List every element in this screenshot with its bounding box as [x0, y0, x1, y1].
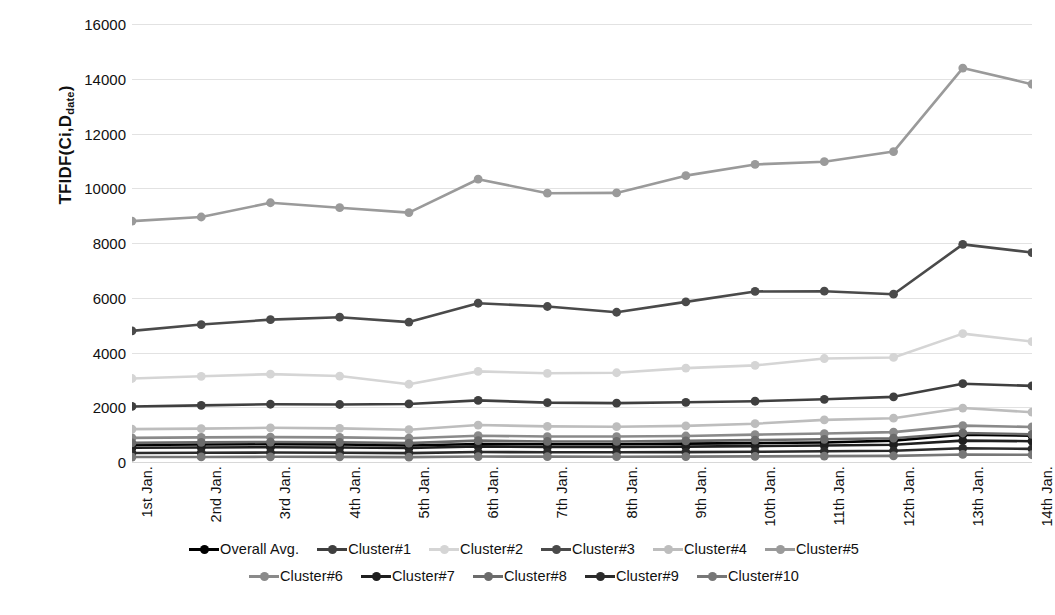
data-point	[474, 299, 483, 308]
legend-label: Cluster#6	[280, 569, 343, 584]
legend-item-cluster-10[interactable]: Cluster#10	[697, 568, 799, 584]
legend-item-cluster-8[interactable]: Cluster#8	[473, 568, 567, 584]
x-axis-tick-label: 8th Jan.	[624, 466, 640, 518]
x-axis-tick-label: 14th Jan.	[1039, 466, 1055, 527]
legend-marker-icon	[653, 543, 683, 556]
legend-marker-icon	[249, 570, 279, 583]
data-point	[197, 372, 206, 381]
legend-row: Cluster#6Cluster#7Cluster#8Cluster#9Clus…	[0, 567, 1048, 584]
x-axis-tick-label: 6th Jan.	[485, 466, 501, 518]
data-point	[405, 400, 414, 409]
series-cluster-5	[132, 64, 1032, 226]
data-point	[543, 398, 552, 407]
x-axis-tick-label: 3rd Jan.	[277, 466, 293, 519]
series-line	[132, 68, 1032, 221]
legend-item-cluster-9[interactable]: Cluster#9	[585, 568, 679, 584]
y-axis-tick-label: 8000	[66, 235, 126, 252]
data-point	[889, 414, 898, 423]
data-point	[751, 361, 760, 370]
series-cluster-2	[132, 329, 1032, 388]
legend-marker-icon	[429, 543, 459, 556]
x-axis-tick-label: 10th Jan.	[762, 466, 778, 527]
y-axis-ticks: 0200040006000800010000120001400016000	[62, 0, 126, 615]
legend-label: Cluster#2	[460, 542, 523, 557]
legend-dot	[484, 572, 493, 581]
data-point	[751, 419, 760, 428]
legend-dot	[440, 545, 449, 554]
data-point	[197, 401, 206, 410]
legend-item-cluster-1[interactable]: Cluster#1	[317, 541, 411, 557]
data-point	[335, 203, 344, 212]
data-point	[405, 318, 414, 327]
data-point	[266, 315, 275, 324]
legend-item-cluster-2[interactable]: Cluster#2	[429, 541, 523, 557]
data-point	[681, 364, 690, 373]
legend-dot	[664, 545, 673, 554]
data-point	[612, 399, 621, 408]
data-point	[681, 297, 690, 306]
legend: Overall Avg.Cluster#1Cluster#2Cluster#3C…	[0, 540, 1048, 594]
data-point	[543, 369, 552, 378]
data-point	[612, 308, 621, 317]
data-point	[197, 453, 206, 462]
data-point	[889, 353, 898, 362]
data-point	[543, 437, 552, 446]
x-axis-tick-label: 9th Jan.	[693, 466, 709, 518]
data-point	[751, 436, 760, 445]
legend-item-cluster-5[interactable]: Cluster#5	[765, 541, 859, 557]
data-point	[751, 397, 760, 406]
legend-item-cluster-3[interactable]: Cluster#3	[541, 541, 635, 557]
data-point	[266, 370, 275, 379]
legend-dot	[260, 572, 269, 581]
y-axis-tick-label: 12000	[66, 125, 126, 142]
legend-marker-icon	[697, 570, 727, 583]
data-point	[474, 396, 483, 405]
y-axis-tick-label: 16000	[66, 16, 126, 33]
legend-marker-icon	[765, 543, 795, 556]
legend-marker-icon	[189, 543, 219, 556]
legend-item-cluster-7[interactable]: Cluster#7	[361, 568, 455, 584]
x-axis-tick-label: 1st Jan.	[139, 466, 155, 518]
data-point	[335, 438, 344, 447]
data-point	[958, 329, 967, 338]
data-point	[820, 354, 829, 363]
data-point	[751, 452, 760, 461]
legend-marker-icon	[317, 543, 347, 556]
data-point	[335, 372, 344, 381]
data-point	[335, 313, 344, 322]
data-point	[681, 171, 690, 180]
legend-label: Cluster#8	[504, 569, 567, 584]
data-point	[1028, 408, 1032, 417]
data-point	[132, 425, 136, 434]
data-point	[1028, 450, 1032, 459]
data-point	[958, 240, 967, 249]
data-point	[889, 147, 898, 156]
y-axis-tick-label: 10000	[66, 180, 126, 197]
data-point	[197, 213, 206, 222]
legend-item-cluster-4[interactable]: Cluster#4	[653, 541, 747, 557]
legend-marker-icon	[541, 543, 571, 556]
legend-label: Cluster#7	[392, 569, 455, 584]
series-cluster-3	[132, 240, 1032, 335]
data-point	[543, 189, 552, 198]
data-point	[474, 367, 483, 376]
legend-item-overall-avg[interactable]: Overall Avg.	[189, 541, 299, 557]
legend-item-cluster-6[interactable]: Cluster#6	[249, 568, 343, 584]
plot-area	[132, 24, 1032, 462]
series-layer	[132, 24, 1032, 462]
data-point	[1028, 80, 1032, 89]
data-point	[958, 450, 967, 459]
data-point	[405, 453, 414, 462]
legend-label: Cluster#4	[684, 542, 747, 557]
data-point	[197, 438, 206, 447]
data-point	[474, 436, 483, 445]
x-axis-ticks: 1st Jan.2nd Jan.3rd Jan.4th Jan.5th Jan.…	[132, 466, 1032, 536]
data-point	[474, 452, 483, 461]
data-point	[889, 434, 898, 443]
data-point	[681, 421, 690, 430]
data-point	[197, 320, 206, 329]
data-point	[1028, 381, 1032, 390]
data-point	[681, 452, 690, 461]
data-point	[820, 287, 829, 296]
legend-marker-icon	[361, 570, 391, 583]
